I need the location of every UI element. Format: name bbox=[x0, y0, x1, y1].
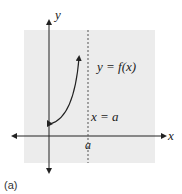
asymptote-label: x = a bbox=[90, 109, 119, 124]
x-axis-label: x bbox=[167, 128, 174, 143]
function-graph: y x y = f(x) x = a a (a) bbox=[0, 0, 182, 194]
y-axis-label: y bbox=[53, 7, 61, 22]
figure-caption: (a) bbox=[4, 179, 17, 191]
a-tick-label: a bbox=[85, 138, 91, 152]
function-label: y = f(x) bbox=[95, 59, 136, 74]
